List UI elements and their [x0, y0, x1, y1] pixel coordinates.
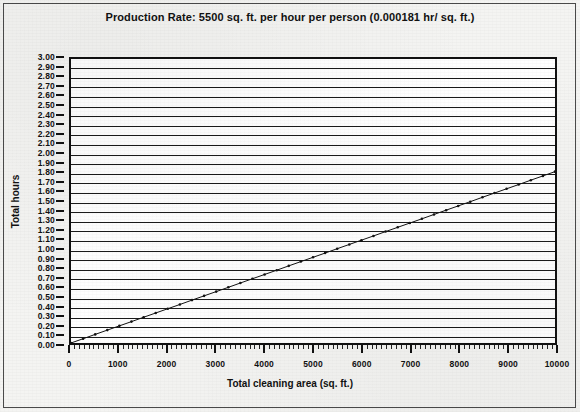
- y-tick-mark: [56, 181, 64, 183]
- series-point: [142, 316, 145, 319]
- y-tick-mark: [56, 258, 64, 260]
- x-tick-major: [507, 345, 509, 353]
- x-tick-minor: [191, 345, 192, 349]
- x-tick-minor: [201, 345, 202, 349]
- y-tick-label: 3.00: [38, 52, 55, 62]
- x-tick-minor: [93, 345, 94, 349]
- x-tick-major: [166, 345, 168, 353]
- series-point: [239, 282, 242, 285]
- y-tick-mark: [56, 229, 64, 231]
- x-tick-minor: [484, 345, 485, 349]
- x-tick-minor: [235, 345, 236, 349]
- x-tick-major: [263, 345, 265, 353]
- series-point: [445, 209, 448, 212]
- x-tick-minor: [74, 345, 75, 349]
- y-tick-label: 0.00: [38, 340, 55, 350]
- y-tick-label: 0.50: [38, 292, 55, 302]
- y-tick-label: 0.40: [38, 302, 55, 312]
- y-tick-label: 2.10: [38, 138, 55, 148]
- series-point: [82, 337, 85, 340]
- y-tick-label: 1.00: [38, 244, 55, 254]
- y-tick-mark: [56, 66, 64, 68]
- x-tick-minor: [518, 345, 519, 349]
- y-tick-mark: [56, 75, 64, 77]
- x-tick-minor: [455, 345, 456, 349]
- x-tick-label: 10000: [545, 359, 570, 369]
- y-tick-label: 0.10: [38, 330, 55, 340]
- x-tick-minor: [269, 345, 270, 349]
- y-tick-label: 0.20: [38, 321, 55, 331]
- y-tick-mark: [56, 123, 64, 125]
- x-tick-label: 0: [67, 359, 72, 369]
- y-tick-mark: [56, 133, 64, 135]
- x-tick-minor: [323, 345, 324, 349]
- series-point: [384, 230, 387, 233]
- x-tick-major: [458, 345, 460, 353]
- x-tick-minor: [494, 345, 495, 349]
- x-tick-minor: [425, 345, 426, 349]
- x-tick-label: 1000: [108, 359, 128, 369]
- x-tick-minor: [537, 345, 538, 349]
- x-tick-minor: [186, 345, 187, 349]
- y-tick-mark: [56, 104, 64, 106]
- y-tick-label: 1.10: [38, 234, 55, 244]
- series-point: [530, 179, 533, 182]
- series-point: [312, 256, 315, 259]
- series-point: [154, 312, 157, 315]
- y-tick-mark: [56, 306, 64, 308]
- series-point: [396, 226, 399, 229]
- x-tick-minor: [284, 345, 285, 349]
- x-tick-minor: [137, 345, 138, 349]
- series-point: [493, 192, 496, 195]
- x-tick-minor: [474, 345, 475, 349]
- y-tick-label: 2.70: [38, 81, 55, 91]
- series-point: [372, 235, 375, 238]
- y-tick-mark: [56, 238, 64, 240]
- x-tick-minor: [401, 345, 402, 349]
- x-tick-minor: [406, 345, 407, 349]
- x-tick-minor: [503, 345, 504, 349]
- y-tick-label: 1.20: [38, 225, 55, 235]
- series-point: [348, 243, 351, 246]
- x-tick-minor: [79, 345, 80, 349]
- x-tick-minor: [328, 345, 329, 349]
- y-tick-mark: [56, 162, 64, 164]
- data-series-line: [71, 59, 555, 343]
- x-tick-minor: [196, 345, 197, 349]
- x-tick-minor: [318, 345, 319, 349]
- y-tick-mark: [56, 56, 64, 58]
- y-tick-label: 1.70: [38, 177, 55, 187]
- plot-inner: [71, 59, 555, 343]
- series-point: [215, 290, 218, 293]
- y-tick-label: 2.20: [38, 129, 55, 139]
- series-point: [94, 333, 97, 336]
- x-tick-minor: [396, 345, 397, 349]
- x-tick-minor: [445, 345, 446, 349]
- x-tick-minor: [308, 345, 309, 349]
- y-tick-mark: [56, 219, 64, 221]
- y-tick-label: 0.30: [38, 311, 55, 321]
- x-tick-label: 2000: [157, 359, 177, 369]
- series-point: [336, 247, 339, 250]
- x-tick-minor: [108, 345, 109, 349]
- plot-area: [69, 57, 557, 345]
- x-axis-tick-labels: 0100020003000400050006000700080009000100…: [0, 359, 580, 373]
- x-tick-label: 3000: [206, 359, 226, 369]
- x-tick-minor: [469, 345, 470, 349]
- series-point: [517, 183, 520, 186]
- series-point: [421, 218, 424, 221]
- x-tick-major: [214, 345, 216, 353]
- x-tick-minor: [552, 345, 553, 349]
- y-tick-label: 2.80: [38, 71, 55, 81]
- y-tick-mark: [56, 277, 64, 279]
- y-axis-tick-labels: 3.002.902.802.702.602.502.402.302.202.10…: [0, 57, 66, 345]
- y-tick-mark: [56, 286, 64, 288]
- x-tick-minor: [430, 345, 431, 349]
- y-tick-mark: [56, 200, 64, 202]
- x-tick-minor: [259, 345, 260, 349]
- x-tick-minor: [479, 345, 480, 349]
- x-tick-minor: [128, 345, 129, 349]
- chart-figure: Production Rate: 5500 sq. ft. per hour p…: [0, 0, 580, 412]
- y-tick-label: 2.60: [38, 90, 55, 100]
- x-tick-label: 7000: [401, 359, 421, 369]
